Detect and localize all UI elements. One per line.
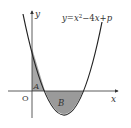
x-axis-label: x (111, 94, 116, 104)
eq-plus: + (100, 13, 107, 23)
eq-equals: = (67, 13, 74, 23)
y-axis-label: y (34, 9, 41, 19)
eq-minus: − (82, 13, 89, 23)
eq-p: p (107, 13, 113, 23)
origin-label: O (22, 94, 29, 103)
region-b-label: B (57, 98, 64, 108)
region-a-label: A (33, 82, 40, 91)
equation-label: y=x2−4x+p (61, 13, 113, 23)
parabola-diagram: y x O A B y=x2−4x+p (0, 0, 131, 128)
